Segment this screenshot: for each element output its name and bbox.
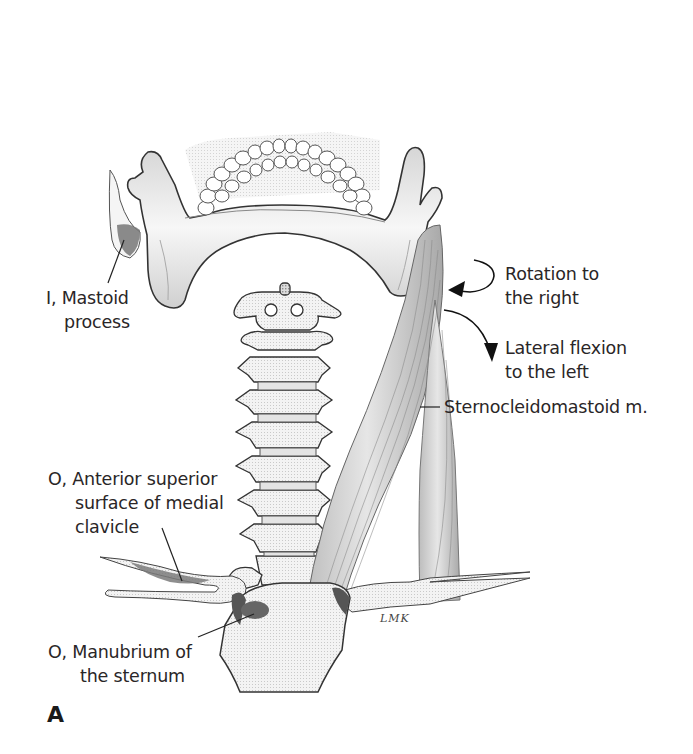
label-muscle-text: Sternocleidomastoid m.	[444, 395, 648, 419]
artist-signature: LMK	[380, 612, 410, 625]
label-rotation-line1: Rotation to	[505, 262, 599, 286]
clavicle-right	[344, 572, 530, 612]
label-lateral-flexion: Lateral flexion to the left	[505, 336, 627, 384]
manubrium	[220, 583, 350, 692]
rotation-arrow	[448, 260, 494, 297]
label-lateral-flexion-line2: to the left	[505, 360, 627, 384]
label-rotation: Rotation to the right	[505, 262, 599, 310]
label-rotation-line2: the right	[505, 286, 599, 310]
lateral-flexion-arrow	[444, 310, 498, 362]
panel-letter: A	[47, 702, 64, 727]
label-origin-manubrium: O, Manubrium of the sternum	[48, 640, 192, 688]
label-insertion-mastoid: I, Mastoid process	[46, 286, 130, 334]
label-sternocleidomastoid: Sternocleidomastoid m.	[444, 395, 648, 419]
sternocleidomastoid-muscle	[305, 225, 460, 610]
label-origin-clavicle-line3: clavicle	[48, 515, 224, 539]
label-insertion-line1: I, Mastoid	[46, 286, 130, 310]
label-origin-clavicle: O, Anterior superior surface of medial c…	[48, 467, 224, 539]
label-origin-manubrium-line2: the sternum	[48, 664, 192, 688]
label-origin-clavicle-line1: O, Anterior superior	[48, 467, 224, 491]
label-origin-clavicle-line2: surface of medial	[48, 491, 224, 515]
label-lateral-flexion-line1: Lateral flexion	[505, 336, 627, 360]
label-origin-manubrium-line1: O, Manubrium of	[48, 640, 192, 664]
clavicle-left	[100, 557, 246, 603]
label-insertion-line2: process	[46, 310, 130, 334]
